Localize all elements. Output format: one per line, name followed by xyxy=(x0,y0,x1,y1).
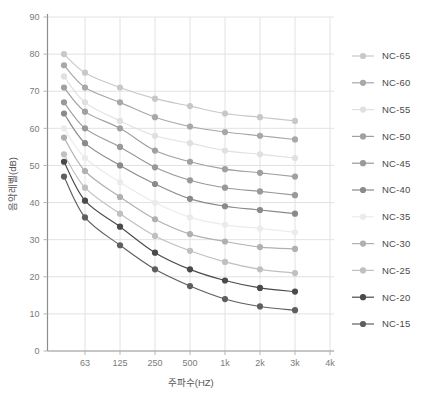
data-point xyxy=(222,259,228,265)
data-point xyxy=(152,250,158,256)
x-axis-tick-label: 3k xyxy=(290,358,300,368)
data-point xyxy=(292,307,298,313)
data-point xyxy=(187,103,193,109)
data-point xyxy=(292,229,298,235)
series-nc-20 xyxy=(61,159,298,295)
data-point xyxy=(152,216,158,222)
y-axis-title: 음악레벨(dB) xyxy=(7,157,18,211)
data-point xyxy=(257,114,263,120)
data-point xyxy=(82,168,88,174)
data-point xyxy=(117,144,123,150)
data-point xyxy=(117,242,123,248)
data-point xyxy=(117,125,123,131)
data-point xyxy=(152,148,158,154)
data-point xyxy=(82,84,88,90)
data-point xyxy=(152,181,158,187)
x-axis-tick-label: 250 xyxy=(147,358,162,368)
y-axis-tick-label: 60 xyxy=(29,124,39,134)
legend-item-nc-65[interactable]: NC-65 xyxy=(352,50,410,61)
data-point xyxy=(187,248,193,254)
data-series-layer xyxy=(61,51,298,313)
data-point xyxy=(222,148,228,154)
x-axis-tick-label: 4k xyxy=(325,358,335,368)
legend-label: NC-40 xyxy=(382,184,410,195)
data-point xyxy=(222,110,228,116)
legend-item-nc-45[interactable]: NC-45 xyxy=(352,158,410,169)
data-point xyxy=(292,192,298,198)
data-point xyxy=(187,140,193,146)
y-axis-tick-label: 70 xyxy=(29,86,39,96)
y-axis-tick-labels: 0102030405060708090 xyxy=(29,12,39,356)
data-point xyxy=(152,199,158,205)
data-point xyxy=(117,224,123,230)
data-point xyxy=(82,185,88,191)
data-point xyxy=(292,246,298,252)
legend-label: NC-50 xyxy=(382,131,410,142)
y-axis-tick-label: 90 xyxy=(29,12,39,22)
y-axis-tick-label: 30 xyxy=(29,235,39,245)
x-axis-tick-labels: 631252505001k2k3k4k xyxy=(80,358,335,368)
legend-item-nc-35[interactable]: NC-35 xyxy=(352,211,410,222)
legend-label: NC-45 xyxy=(382,158,410,169)
legend-label: NC-15 xyxy=(382,318,410,329)
data-point xyxy=(61,159,67,165)
data-point xyxy=(187,159,193,165)
legend-label: NC-60 xyxy=(382,77,410,88)
series-nc-40 xyxy=(61,110,298,216)
data-point xyxy=(257,188,263,194)
legend-label: NC-25 xyxy=(382,265,410,276)
data-point xyxy=(187,231,193,237)
data-point xyxy=(292,155,298,161)
data-point xyxy=(117,84,123,90)
data-point xyxy=(61,73,67,79)
data-point xyxy=(222,222,228,228)
legend-item-nc-25[interactable]: NC-25 xyxy=(352,265,410,276)
y-axis-tick-label: 10 xyxy=(29,309,39,319)
data-point xyxy=(61,99,67,105)
data-point xyxy=(257,151,263,157)
legend-item-nc-20[interactable]: NC-20 xyxy=(352,292,410,303)
legend-item-nc-15[interactable]: NC-15 xyxy=(352,318,410,329)
legend-label: NC-20 xyxy=(382,292,410,303)
legend-item-nc-40[interactable]: NC-40 xyxy=(352,184,410,195)
legend: NC-65NC-60NC-55NC-50NC-45NC-40NC-35NC-30… xyxy=(352,50,410,329)
x-axis-tick-label: 125 xyxy=(112,358,127,368)
data-point xyxy=(82,109,88,115)
legend-item-nc-60[interactable]: NC-60 xyxy=(352,77,410,88)
data-point xyxy=(222,166,228,172)
data-point xyxy=(117,211,123,217)
series-nc-60 xyxy=(61,62,298,142)
legend-marker-icon xyxy=(360,53,366,59)
data-point xyxy=(82,125,88,131)
nc-curve-chart: 0102030405060708090 631252505001k2k3k4k … xyxy=(0,0,427,398)
legend-marker-icon xyxy=(360,187,366,193)
legend-marker-icon xyxy=(360,321,366,327)
data-point xyxy=(257,170,263,176)
data-point xyxy=(257,244,263,250)
data-point xyxy=(187,123,193,129)
data-point xyxy=(292,211,298,217)
legend-item-nc-55[interactable]: NC-55 xyxy=(352,104,410,115)
series-nc-65 xyxy=(61,51,298,124)
data-point xyxy=(61,110,67,116)
legend-marker-icon xyxy=(360,294,366,300)
data-point xyxy=(117,99,123,105)
legend-item-nc-50[interactable]: NC-50 xyxy=(352,131,410,142)
y-axis-tick-label: 20 xyxy=(29,272,39,282)
data-point xyxy=(257,207,263,213)
data-point xyxy=(82,214,88,220)
x-axis-title: 주파수(HZ) xyxy=(168,377,214,388)
data-point xyxy=(187,214,193,220)
data-point xyxy=(187,196,193,202)
legend-item-nc-30[interactable]: NC-30 xyxy=(352,238,410,249)
data-point xyxy=(61,135,67,141)
y-axis-tick-label: 50 xyxy=(29,161,39,171)
data-point xyxy=(292,173,298,179)
data-point xyxy=(61,51,67,57)
data-point xyxy=(82,155,88,161)
data-point xyxy=(61,173,67,179)
legend-label: NC-65 xyxy=(382,50,410,61)
data-point xyxy=(152,164,158,170)
data-point xyxy=(82,99,88,105)
data-point xyxy=(292,136,298,142)
